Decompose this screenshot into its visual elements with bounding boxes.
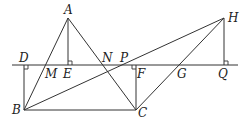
geometry-diagram: A B C D E M N P F G Q H: [0, 0, 249, 121]
label-q: Q: [218, 67, 228, 81]
label-m: M: [44, 67, 58, 81]
right-angle-e-icon: [68, 61, 72, 65]
label-e: E: [62, 67, 72, 81]
label-p: P: [119, 51, 129, 65]
segment-ch: [136, 18, 224, 110]
label-c: C: [138, 106, 147, 120]
segment-ab: [24, 18, 68, 110]
label-b: B: [11, 103, 21, 117]
label-a: A: [63, 3, 73, 17]
label-n: N: [101, 51, 113, 65]
label-g: G: [177, 67, 187, 81]
label-h: H: [227, 11, 239, 25]
label-f: F: [136, 67, 146, 81]
right-angle-f-icon: [132, 65, 136, 69]
label-d: D: [18, 51, 29, 65]
right-angle-d-icon: [24, 65, 28, 69]
right-angle-q-icon: [224, 61, 228, 65]
